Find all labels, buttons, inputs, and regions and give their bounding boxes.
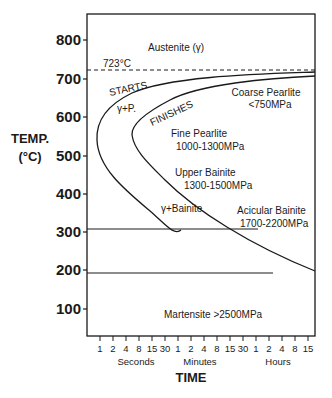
y-tick-400: 400 xyxy=(56,185,81,202)
y-axis-label-line1: TEMP. xyxy=(11,131,49,146)
x-tick: 8 xyxy=(136,343,141,354)
fine-pearlite-strength: 1000-1300MPa xyxy=(176,141,245,152)
x-tick: 30 xyxy=(160,343,171,354)
coarse-pearlite-label: Coarse Pearlite xyxy=(232,87,301,98)
x-tick: 8 xyxy=(292,343,297,354)
gamma-pearlite-label: γ+P. xyxy=(117,103,136,114)
austenite-label: Austenite (γ) xyxy=(148,42,204,53)
x-tick: 1 xyxy=(97,343,102,354)
x-tick: 4 xyxy=(279,343,284,354)
x-tick: 8 xyxy=(214,343,219,354)
x-tick: 30 xyxy=(238,343,249,354)
x-tick: 15 xyxy=(147,343,158,354)
x-tick: 1 xyxy=(175,343,180,354)
y-tick-500: 500 xyxy=(56,147,81,164)
ttt-diagram: 800 700 600 500 400 300 200 100 TEMP. (°… xyxy=(0,0,332,398)
acicular-bainite-label: Acicular Bainite xyxy=(237,205,306,216)
x-tick: 2 xyxy=(110,343,115,354)
x-tick: 2 xyxy=(188,343,193,354)
fine-pearlite-label: Fine Pearlite xyxy=(171,128,228,139)
y-tick-300: 300 xyxy=(56,223,81,240)
x-tick: 4 xyxy=(123,343,128,354)
y-axis-tick-labels: 800 700 600 500 400 300 200 100 xyxy=(56,31,81,317)
unit-minutes: Minutes xyxy=(183,356,217,367)
y-tick-600: 600 xyxy=(56,108,81,125)
y-axis-label-line2: (°C) xyxy=(18,149,41,164)
gamma-bainite-label: γ+Bainite xyxy=(161,203,203,214)
x-tick: 15 xyxy=(225,343,236,354)
x-axis-label: TIME xyxy=(175,370,206,385)
y-tick-100: 100 xyxy=(56,300,81,317)
eutectoid-label: 723°C xyxy=(103,58,131,69)
upper-bainite-strength: 1300-1500MPa xyxy=(184,180,253,191)
upper-bainite-label: Upper Bainite xyxy=(175,167,236,178)
x-axis-ticks xyxy=(100,336,308,341)
acicular-bainite-strength: 1700-2200MPa xyxy=(240,218,309,229)
x-tick: 2 xyxy=(266,343,271,354)
finishes-label: FINISHES xyxy=(148,98,195,128)
x-tick: 1 xyxy=(253,343,258,354)
unit-seconds: Seconds xyxy=(118,356,155,367)
x-tick: 15 xyxy=(303,343,314,354)
y-tick-800: 800 xyxy=(56,31,81,48)
y-tick-200: 200 xyxy=(56,261,81,278)
y-tick-700: 700 xyxy=(56,70,81,87)
unit-hours: Hours xyxy=(265,356,291,367)
martensite-label: Martensite >2500MPa xyxy=(164,309,263,320)
x-axis-tick-labels: 1 2 4 8 15 30 1 2 4 8 15 30 1 2 4 8 15 xyxy=(97,343,313,354)
coarse-pearlite-strength: <750MPa xyxy=(248,99,292,110)
x-tick: 4 xyxy=(201,343,206,354)
